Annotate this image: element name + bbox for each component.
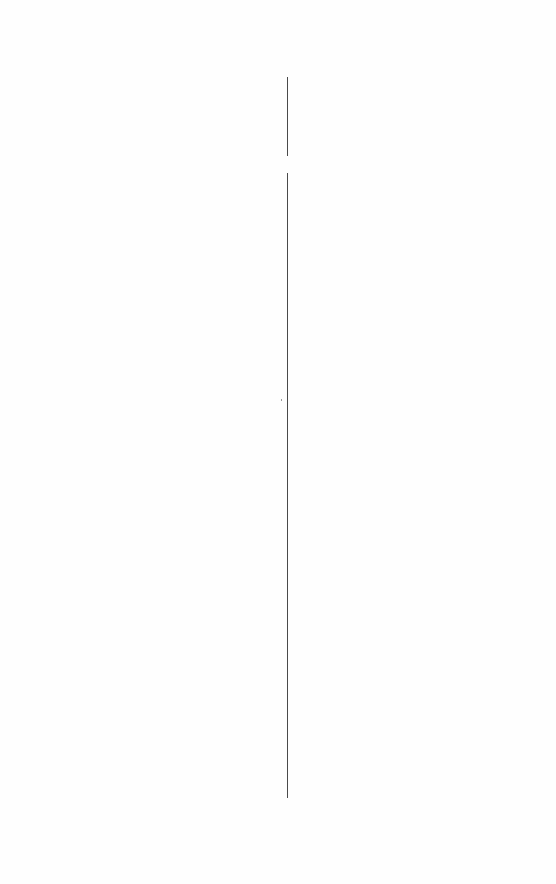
stray-dot-marker xyxy=(281,399,282,401)
vertical-divider-main-segment xyxy=(287,173,288,798)
blank-canvas xyxy=(0,0,556,884)
vertical-divider-top-segment xyxy=(287,77,288,156)
